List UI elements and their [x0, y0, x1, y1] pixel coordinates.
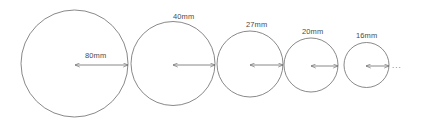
dimension-label-16mm: 16mm: [356, 32, 377, 40]
dimension-label-40mm: 40mm: [173, 13, 194, 21]
dimension-label-27mm: 27mm: [246, 21, 267, 29]
circle-20mm: [284, 38, 338, 92]
circle-16mm: [344, 43, 389, 88]
dimension-label-80mm: 80mm: [85, 52, 106, 60]
circle-80mm: [21, 10, 128, 117]
diagram-canvas: [0, 0, 423, 123]
circle-series-diagram: 80mm 40mm 27mm 20mm 16mm ...: [0, 0, 423, 123]
circle-outlines: [21, 10, 389, 117]
dimension-label-20mm: 20mm: [302, 28, 323, 36]
radius-arrows: [75, 65, 389, 66]
circle-27mm: [217, 31, 283, 97]
continuation-ellipsis: ...: [392, 62, 402, 70]
circle-40mm: [131, 22, 215, 106]
